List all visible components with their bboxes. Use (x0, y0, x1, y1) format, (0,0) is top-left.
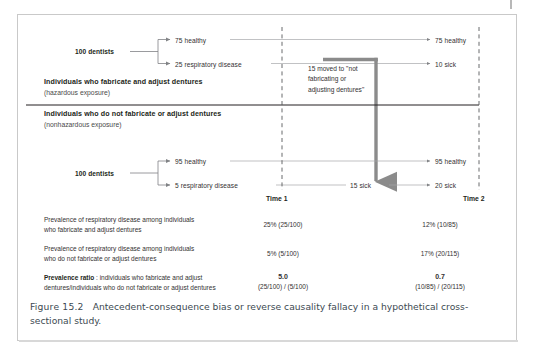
table-row-1-desc-line1: Prevalence of respiratory disease among … (44, 216, 194, 223)
group1-t2-branch-healthy: 75 healthy (435, 36, 466, 45)
group1-t1-branch-disease: 25 respiratory disease (175, 60, 242, 69)
table-row-3-lead: Prevalence ratio (44, 274, 94, 281)
table-row-3-desc-line1: : individuals who fabricate and adjust (94, 274, 202, 281)
table-row-3-time2-value: 0.7 (380, 272, 500, 282)
flow-note-line-2: fabricating or (308, 74, 364, 84)
group2-t1-branch-healthy: 95 healthy (175, 157, 206, 166)
group1-subtitle: (hazardous exposure) (44, 89, 110, 96)
group2-subtitle: (nonhazardous exposure) (44, 121, 121, 128)
table-row-1-time2-value: 12% (10/85) (380, 220, 500, 230)
group2-t1-branch-disease: 5 respiratory disease (175, 181, 238, 190)
table-row-2-time2-value: 17% (20/115) (380, 249, 500, 259)
figure-caption-text: Antecedent-consequence bias or reverse c… (30, 301, 468, 326)
table-row-2-desc-line2: who do not fabricate or adjust dentures (44, 255, 156, 262)
figure-caption: Figure 15.2Antecedent-consequence bias o… (30, 300, 482, 327)
table-row-2-time1-value: 5% (5/100) (223, 249, 343, 259)
group2-source-label: 100 dentists (75, 169, 114, 178)
table-row-3-time2-detail: (10/85) / (20/115) (380, 282, 500, 292)
table-row-1-desc-line2: who fabricate and adjust dentures (44, 226, 142, 233)
group1-t2-branch-sick: 10 sick (435, 60, 456, 69)
figure-caption-number: Figure 15.2 (30, 301, 84, 312)
figure-container: 100 dentists 75 healthy 25 respiratory d… (17, 14, 517, 341)
group2-title: Individuals who do not fabricate or adju… (44, 110, 221, 118)
table-row-2-desc-line1: Prevalence of respiratory disease among … (44, 245, 194, 252)
table-row-3-desc-line2: dentures/individuals who do not fabricat… (44, 284, 216, 291)
group1-t1-branch-healthy: 75 healthy (175, 36, 206, 45)
group1-source-label: 100 dentists (75, 47, 114, 56)
table-row-3-time1-detail: (25/100) / (5/100) (223, 282, 343, 292)
time2-axis-label: Time 2 (463, 195, 484, 202)
time1-axis-label: Time 1 (266, 195, 287, 202)
flow-note: 15 moved to "not fabricating or adjustin… (308, 64, 364, 95)
group1-title: Individuals who fabricate and adjust den… (44, 78, 203, 86)
table-row-1-time1-value: 25% (25/100) (223, 220, 343, 230)
group2-t2-branch-sick: 20 sick (435, 181, 456, 190)
diagram-area: 100 dentists 75 healthy 25 respiratory d… (18, 15, 518, 342)
flow-note-line-1: 15 moved to "not (308, 64, 364, 74)
flow-note-line-3: adjusting dentures" (308, 85, 364, 95)
page-edge-artifact (510, 0, 512, 9)
group2-t2-branch-healthy: 95 healthy (435, 157, 466, 166)
table-row-3-time1-value: 5.0 (223, 272, 343, 282)
mid-flow-label: 15 sick (350, 181, 371, 190)
